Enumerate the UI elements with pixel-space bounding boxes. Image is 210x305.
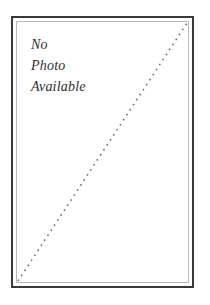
message-line-photo: Photo <box>31 55 86 76</box>
message-line-no: No <box>31 34 86 55</box>
photo-frame-outer-border: No Photo Available <box>11 16 194 288</box>
no-photo-available-message: No Photo Available <box>31 34 86 97</box>
message-line-available: Available <box>31 76 86 97</box>
photo-image-area: No Photo Available <box>17 22 188 282</box>
photo-frame-inner-border: No Photo Available <box>16 21 189 283</box>
photo-placeholder-canvas: No Photo Available <box>0 0 210 305</box>
